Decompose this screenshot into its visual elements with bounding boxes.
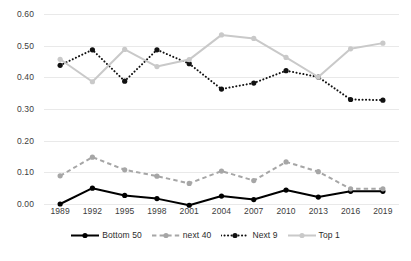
data-point: [90, 79, 95, 84]
data-point: [348, 97, 353, 102]
legend-item-next-40[interactable]: next 40: [152, 230, 212, 240]
data-point: [58, 201, 63, 206]
y-axis-tick-label: 0.40: [0, 72, 34, 82]
y-axis-tick-label: 0.20: [0, 136, 34, 146]
data-point: [283, 55, 288, 60]
data-point: [187, 57, 192, 62]
legend-label: Bottom 50: [102, 230, 142, 240]
data-point: [348, 46, 353, 51]
data-point: [90, 47, 95, 52]
data-point: [154, 64, 159, 69]
data-point: [316, 194, 321, 199]
legend-item-top-1[interactable]: Top 1: [288, 230, 340, 240]
data-point: [90, 155, 95, 160]
data-point: [316, 74, 321, 79]
legend-swatch-icon: [71, 231, 99, 240]
data-point: [348, 186, 353, 191]
series-line: [60, 35, 383, 82]
data-point: [219, 86, 224, 91]
x-axis-tick-label: 1992: [83, 206, 102, 216]
data-point: [219, 168, 224, 173]
data-point: [58, 63, 63, 68]
y-axis-tick-label: 0.10: [0, 167, 34, 177]
data-point: [154, 47, 159, 52]
data-point: [251, 178, 256, 183]
data-point: [219, 193, 224, 198]
legend-label: Next 9: [252, 230, 277, 240]
data-point: [380, 41, 385, 46]
data-point: [187, 203, 192, 208]
legend-swatch-icon: [152, 231, 180, 240]
data-point: [316, 169, 321, 174]
x-axis-tick-label: 2016: [341, 206, 360, 216]
x-axis-tick-label: 1995: [115, 206, 134, 216]
data-point: [187, 181, 192, 186]
series-line: [60, 50, 383, 100]
data-point: [122, 193, 127, 198]
gridline: [44, 204, 399, 205]
data-point: [283, 68, 288, 73]
data-point: [90, 186, 95, 191]
line-chart: 0.000.100.200.300.400.500.60 19891992199…: [0, 0, 411, 261]
legend-label: next 40: [183, 230, 212, 240]
data-point: [58, 173, 63, 178]
y-axis-tick-label: 0.50: [0, 41, 34, 51]
y-axis-tick-label: 0.60: [0, 9, 34, 19]
legend-item-next-9[interactable]: Next 9: [221, 230, 277, 240]
data-point: [122, 47, 127, 52]
data-point: [154, 174, 159, 179]
plot-area: 0.000.100.200.300.400.500.60 19891992199…: [44, 14, 399, 204]
legend-item-bottom-50[interactable]: Bottom 50: [71, 230, 142, 240]
data-point: [154, 196, 159, 201]
y-axis-tick-label: 0.30: [0, 104, 34, 114]
data-point: [251, 36, 256, 41]
chart-legend: Bottom 50next 40Next 9Top 1: [0, 230, 411, 240]
data-point: [122, 79, 127, 84]
legend-swatch-icon: [221, 231, 249, 240]
x-axis-tick-label: 1989: [50, 206, 69, 216]
x-axis-tick-label: 2013: [309, 206, 328, 216]
legend-label: Top 1: [319, 230, 340, 240]
x-axis-tick-label: 1998: [147, 206, 166, 216]
data-point: [380, 98, 385, 103]
data-point: [251, 197, 256, 202]
x-axis-tick-label: 2007: [244, 206, 263, 216]
legend-swatch-icon: [288, 231, 316, 240]
x-axis-tick-label: 2010: [276, 206, 295, 216]
data-point: [122, 167, 127, 172]
data-point: [380, 186, 385, 191]
data-point: [283, 187, 288, 192]
data-point: [58, 57, 63, 62]
y-axis-tick-label: 0.00: [0, 199, 34, 209]
data-point: [283, 159, 288, 164]
data-point: [219, 32, 224, 37]
series-layer: [44, 14, 399, 204]
x-axis-tick-label: 2019: [373, 206, 392, 216]
data-point: [251, 80, 256, 85]
x-axis-tick-label: 2004: [212, 206, 231, 216]
